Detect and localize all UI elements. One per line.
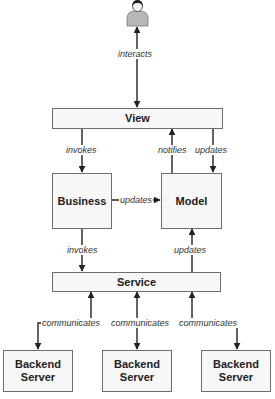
view-label: View [125, 112, 150, 125]
edge-label-interacts: interacts [117, 49, 153, 59]
business-box: Business [52, 173, 112, 229]
model-box: Model [161, 173, 222, 229]
edge-label-updates: updates [119, 195, 153, 205]
edge-label-updates: updates [194, 145, 228, 155]
edge-label-invokes: invokes [65, 145, 98, 155]
backend-server-box-1: Backend Server [3, 350, 73, 392]
backend-server-label: Backend Server [114, 358, 160, 384]
backend-server-label: Backend Server [213, 358, 259, 384]
service-label: Service [117, 276, 156, 289]
edge-label-communicates: communicates [178, 318, 238, 328]
backend-server-box-3: Backend Server [201, 350, 271, 392]
edge-label-communicates: communicates [110, 318, 170, 328]
view-box: View [52, 108, 223, 129]
model-label: Model [176, 195, 208, 208]
business-label: Business [58, 195, 107, 208]
edge-label-invokes: invokes [66, 245, 99, 255]
edge-label-communicates: communicates [41, 318, 101, 328]
backend-server-label: Backend Server [15, 358, 61, 384]
service-box: Service [52, 272, 221, 292]
user-icon [124, 0, 151, 27]
backend-server-box-2: Backend Server [102, 350, 172, 392]
edge-label-updates: updates [173, 245, 207, 255]
edge-label-notifies: notifies [157, 145, 188, 155]
